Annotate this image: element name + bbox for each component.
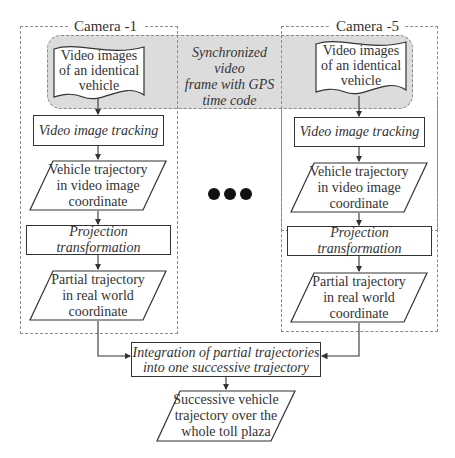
connector-arrows (0, 0, 455, 458)
